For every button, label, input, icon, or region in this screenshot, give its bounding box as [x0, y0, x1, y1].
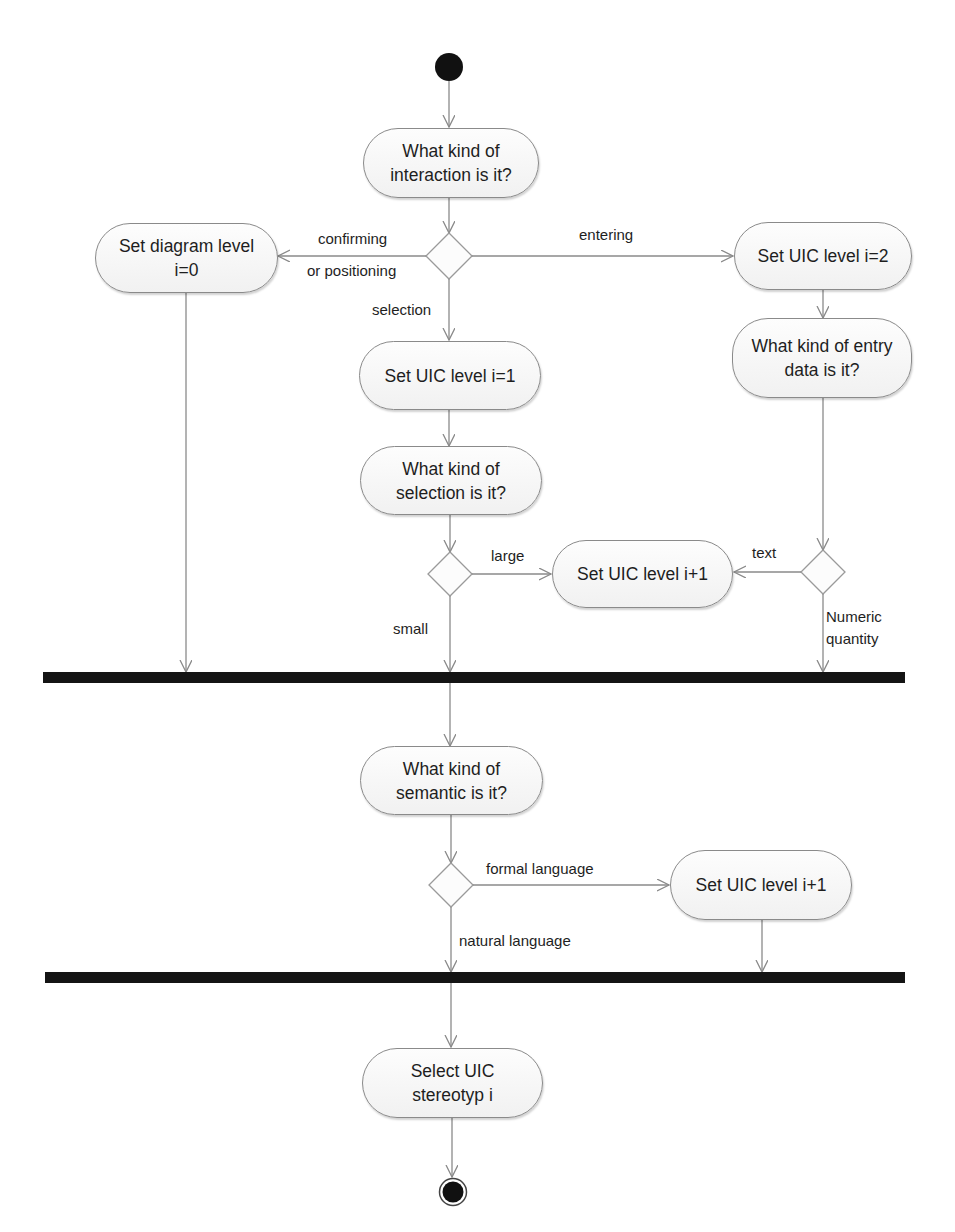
decision-selection — [428, 552, 472, 596]
edge-label-large: large — [491, 546, 524, 566]
decision-entry-data — [801, 550, 845, 594]
edge-label-formal-language: formal language — [486, 859, 594, 879]
node-set-uic-level-2: Set UIC level i=2 — [734, 222, 912, 290]
join-bar-1 — [43, 672, 905, 683]
edge-label-numeric-quantity: Numeric quantity — [826, 606, 882, 650]
node-selection-kind: What kind of selection is it? — [360, 446, 542, 515]
edge-label-confirming: confirming — [318, 229, 387, 249]
node-set-uic-level-increment-b: Set UIC level i+1 — [670, 850, 852, 920]
node-interaction-kind: What kind of interaction is it? — [363, 128, 539, 198]
node-select-stereotype: Select UIC stereotyp i — [362, 1048, 543, 1118]
node-entry-data-kind: What kind of entry data is it? — [732, 318, 912, 398]
activity-diagram: What kind of interaction is it? Set diag… — [0, 0, 955, 1232]
node-set-uic-level-1: Set UIC level i=1 — [359, 341, 541, 410]
edge-label-selection: selection — [372, 300, 431, 320]
edge-label-or-positioning: or positioning — [307, 261, 396, 281]
edge-label-text: text — [752, 543, 776, 563]
node-set-diagram-level: Set diagram level i=0 — [95, 223, 278, 293]
node-semantic-kind: What kind of semantic is it? — [360, 746, 543, 815]
edge-label-natural-language: natural language — [459, 931, 571, 951]
edge-label-small: small — [393, 619, 428, 639]
edge-label-entering: entering — [579, 225, 633, 245]
decision-semantic — [429, 863, 473, 907]
initial-node — [435, 53, 463, 81]
decision-interaction — [426, 233, 472, 279]
node-set-uic-level-increment-a: Set UIC level i+1 — [552, 540, 733, 608]
final-node — [440, 1179, 467, 1206]
join-bar-2 — [45, 972, 905, 983]
